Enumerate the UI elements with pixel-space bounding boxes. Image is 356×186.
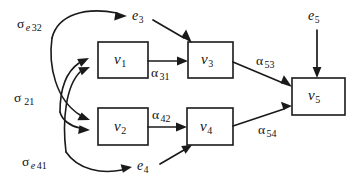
- edge-e5-to-v5: [313, 30, 322, 78]
- node-label-v4: v4: [200, 119, 212, 136]
- node-label-v2: v2: [114, 119, 126, 136]
- path-diagram-figure: v1 v2 v3 v4 v5 e3 e4 e5 α31 α42 α53 α54 …: [0, 0, 356, 186]
- path-label-alpha54: α54: [258, 123, 277, 139]
- node-label-v5: v5: [308, 88, 320, 105]
- node-label-v3: v3: [201, 52, 213, 69]
- diagram-canvas: [0, 0, 356, 186]
- path-label-alpha53: α53: [256, 54, 275, 70]
- edge-e4-to-v4: [160, 145, 192, 164]
- edge-sigma-e32-to-e3: [52, 11, 127, 38]
- error-label-e3: e3: [132, 9, 143, 25]
- edge-sigma-21-to-v1: [60, 58, 89, 112]
- error-label-e4: e4: [137, 159, 148, 175]
- covariance-label-sigma-e32: σe32: [17, 17, 42, 33]
- path-label-alpha31: α31: [151, 66, 170, 82]
- edge-v2-to-v4: [148, 123, 187, 132]
- edge-sigma-e41-to-e4: [66, 152, 132, 173]
- edge-e3-to-v3: [153, 20, 192, 43]
- edge-sigma-e41-to-v1: [65, 67, 90, 152]
- covariance-label-sigma-e41: σe41: [22, 155, 47, 171]
- error-label-e5: e5: [308, 9, 319, 25]
- node-label-v1: v1: [114, 52, 126, 69]
- path-label-alpha42: α42: [152, 108, 171, 124]
- covariance-label-sigma-21: σ21: [14, 91, 34, 107]
- edge-sigma-e32-to-v2: [51, 38, 90, 120]
